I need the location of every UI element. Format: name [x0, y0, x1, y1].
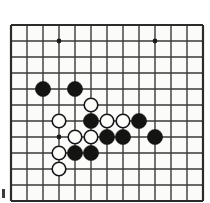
- star-point: [57, 39, 62, 44]
- white-stone[interactable]: [100, 114, 114, 128]
- go-board[interactable]: [0, 0, 210, 203]
- star-point: [57, 135, 62, 140]
- black-stone[interactable]: [67, 145, 82, 160]
- black-stone[interactable]: [67, 81, 82, 96]
- white-stone[interactable]: [68, 130, 82, 144]
- black-stone[interactable]: [99, 129, 114, 144]
- black-stone[interactable]: [147, 129, 162, 144]
- white-stone[interactable]: [52, 146, 66, 160]
- black-stone[interactable]: [83, 145, 98, 160]
- black-stone[interactable]: [83, 113, 98, 128]
- white-stone[interactable]: [52, 162, 66, 176]
- white-stone[interactable]: [84, 130, 98, 144]
- scan-mark-bottom-left: [2, 189, 5, 198]
- white-stone[interactable]: [84, 98, 98, 112]
- white-stone[interactable]: [116, 114, 130, 128]
- black-stone[interactable]: [115, 129, 130, 144]
- black-stone[interactable]: [35, 81, 50, 96]
- black-stone[interactable]: [131, 113, 146, 128]
- white-stone[interactable]: [52, 114, 66, 128]
- go-board-figure: [0, 0, 210, 203]
- star-point: [153, 39, 158, 44]
